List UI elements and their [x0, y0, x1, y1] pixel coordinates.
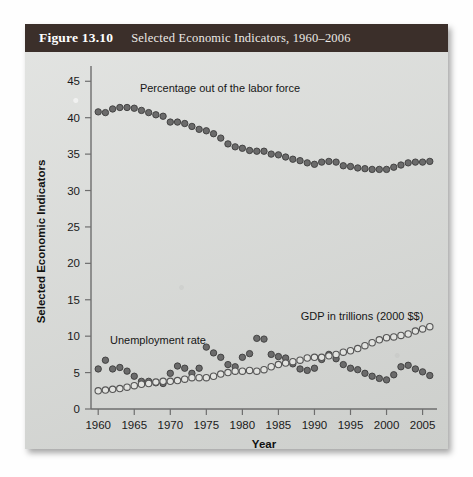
data-point — [340, 361, 346, 367]
data-point — [109, 366, 115, 372]
data-point — [117, 364, 123, 370]
data-point — [109, 106, 115, 112]
data-point — [246, 350, 252, 356]
data-point — [275, 152, 281, 158]
data-point — [268, 364, 274, 370]
data-point — [261, 148, 267, 154]
y-tick-label: 45 — [67, 75, 80, 87]
figure-header-bar: Figure 13.10 Selected Economic Indicator… — [25, 24, 448, 52]
data-point — [304, 367, 310, 373]
data-point — [153, 379, 159, 385]
data-point — [203, 374, 209, 380]
data-point — [182, 376, 188, 382]
data-point — [189, 123, 195, 129]
data-point — [268, 151, 274, 157]
data-point — [311, 365, 317, 371]
x-tick-label: 1965 — [121, 419, 147, 431]
x-tick-label: 1980 — [230, 419, 256, 431]
data-point — [376, 166, 382, 172]
data-point — [153, 112, 159, 118]
data-point — [282, 154, 288, 160]
y-tick-label: 15 — [67, 294, 80, 306]
data-point — [131, 105, 137, 111]
data-point — [254, 368, 260, 374]
data-point — [138, 107, 144, 113]
data-point — [362, 342, 368, 348]
data-point — [311, 354, 317, 360]
figure-caption: Selected Economic Indicators, 1960–2006 — [131, 31, 351, 46]
data-point — [102, 109, 108, 115]
x-axis-title: Year — [252, 438, 277, 449]
data-point — [340, 163, 346, 169]
data-point — [383, 377, 389, 383]
data-points-group — [95, 104, 433, 394]
data-point — [297, 357, 303, 363]
data-point — [290, 156, 296, 162]
data-point — [182, 120, 188, 126]
x-tick-label: 1960 — [85, 419, 111, 431]
data-point — [268, 351, 274, 357]
data-point — [189, 374, 195, 380]
data-point — [167, 378, 173, 384]
data-point — [405, 331, 411, 337]
data-point — [138, 381, 144, 387]
data-point — [419, 159, 425, 165]
series-annotations-group: Percentage out of the labor forceUnemplo… — [110, 82, 423, 346]
data-point — [419, 326, 425, 332]
y-tick-label: 40 — [67, 112, 80, 124]
data-point — [282, 360, 288, 366]
data-point — [174, 377, 180, 383]
data-point — [225, 141, 231, 147]
x-tick-label: 1985 — [266, 419, 292, 431]
data-point — [376, 375, 382, 381]
annotation-labor-force: Percentage out of the labor force — [140, 82, 300, 94]
data-point — [95, 109, 101, 115]
y-tick-label: 25 — [67, 221, 80, 233]
data-point — [398, 162, 404, 168]
data-point — [333, 351, 339, 357]
data-point — [318, 354, 324, 360]
y-tick-label: 10 — [67, 330, 80, 342]
data-point — [102, 357, 108, 363]
data-point — [124, 384, 130, 390]
data-point — [318, 159, 324, 165]
data-point — [160, 113, 166, 119]
x-tick-label: 2005 — [410, 419, 436, 431]
data-point — [427, 372, 433, 378]
data-point — [405, 160, 411, 166]
data-point — [369, 166, 375, 172]
data-point — [232, 144, 238, 150]
data-point — [311, 161, 317, 167]
data-point — [369, 340, 375, 346]
data-point — [210, 350, 216, 356]
data-point — [297, 157, 303, 163]
data-point — [124, 368, 130, 374]
data-point — [246, 367, 252, 373]
data-point — [196, 126, 202, 132]
data-point — [218, 371, 224, 377]
data-point — [254, 335, 260, 341]
data-point — [362, 370, 368, 376]
x-tick-label: 1990 — [302, 419, 328, 431]
data-point — [203, 128, 209, 134]
data-point — [145, 380, 151, 386]
data-point — [124, 104, 130, 110]
data-point — [427, 324, 433, 330]
data-point — [239, 368, 245, 374]
data-point — [340, 349, 346, 355]
data-point — [412, 159, 418, 165]
data-point — [182, 365, 188, 371]
data-point — [304, 355, 310, 361]
data-point — [160, 378, 166, 384]
data-point — [362, 165, 368, 171]
data-point — [167, 119, 173, 125]
data-point — [355, 345, 361, 351]
data-point — [297, 366, 303, 372]
data-point — [225, 361, 231, 367]
x-tick-label: 1975 — [194, 419, 220, 431]
y-tick-label: 0 — [74, 403, 80, 415]
data-point — [383, 166, 389, 172]
data-point — [347, 365, 353, 371]
data-point — [131, 383, 137, 389]
data-point — [232, 368, 238, 374]
